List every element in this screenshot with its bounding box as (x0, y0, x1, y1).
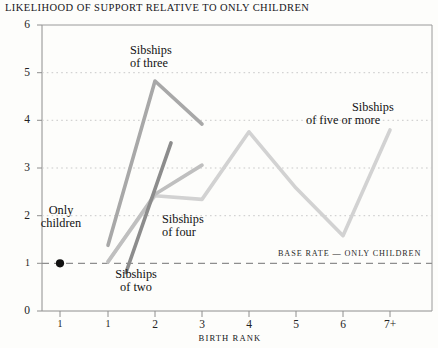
chart-root: LIKELIHOOD OF SUPPORT RELATIVE TO ONLY C… (0, 0, 438, 348)
series-label-four-line2: of four (162, 226, 204, 239)
y-tick-label-3: 3 (14, 161, 30, 173)
series-label-only-children-line1: Only (26, 204, 96, 217)
series-label-sibships-of-five-or-more: Sibships of five or more (306, 101, 394, 128)
series-label-only-children-line2: children (26, 217, 96, 230)
x-tick-label-only-children: 1 (45, 318, 75, 329)
y-tick-label-5: 5 (14, 66, 30, 78)
series-line-five-or-more (108, 130, 390, 262)
x-tick-label-7-plus: 7+ (375, 318, 405, 330)
x-tick-label-3: 3 (187, 318, 217, 330)
chart-plot-area (0, 0, 438, 348)
series-label-three-line2: of three (130, 57, 172, 70)
series-label-four-line1: Sibships (162, 213, 204, 226)
only-children-data-point (56, 259, 64, 267)
series-label-five-line1: Sibships (306, 101, 394, 114)
y-tick-label-1: 1 (14, 257, 30, 268)
y-tick-label-4: 4 (14, 113, 30, 125)
x-tick-label-4: 4 (234, 318, 264, 330)
baseline-annotation: BASE RATE — ONLY CHILDREN (278, 249, 421, 258)
series-label-two-line1: Sibships (96, 268, 176, 281)
x-tick-label-1: 1 (93, 318, 123, 329)
x-tick-label-2: 2 (140, 318, 170, 330)
series-label-sibships-of-three: Sibships of three (130, 44, 172, 71)
series-label-only-children: Only children (26, 204, 96, 231)
x-axis-title: BIRTH RANK (170, 333, 290, 343)
y-tick-label-0: 0 (14, 304, 30, 316)
series-label-sibships-of-two: Sibships of two (96, 268, 176, 295)
series-label-three-line1: Sibships (130, 44, 172, 57)
y-tick-label-6: 6 (14, 18, 30, 30)
x-tick-label-5: 5 (281, 318, 311, 330)
series-label-five-line2: of five or more (306, 114, 394, 127)
series-label-sibships-of-four: Sibships of four (162, 213, 204, 240)
series-label-two-line2: of two (96, 281, 176, 294)
x-tick-label-6: 6 (328, 318, 358, 330)
